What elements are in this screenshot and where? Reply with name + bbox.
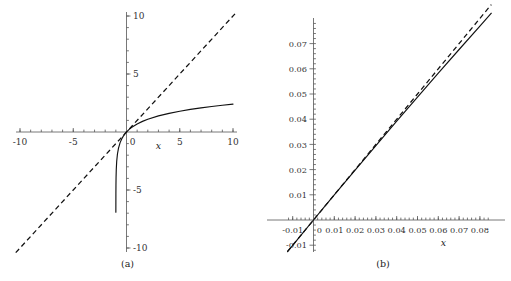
x-tick-label: -0.01 bbox=[282, 225, 303, 235]
series-log-1-x bbox=[288, 13, 492, 251]
series-log-1-x bbox=[116, 104, 233, 212]
x-tick-label: 0 bbox=[130, 137, 136, 147]
x-tick-label: -5 bbox=[69, 137, 78, 147]
panel-a: -10-50510105-5-10x (a) bbox=[0, 0, 255, 281]
y-tick-label: -5 bbox=[133, 185, 142, 195]
x-axis-label: x bbox=[441, 237, 447, 248]
y-tick-label: 0.04 bbox=[289, 114, 307, 124]
x-tick-label: 0.07 bbox=[450, 225, 468, 235]
panel-b-caption: (b) bbox=[255, 258, 511, 269]
x-tick-label: 0.04 bbox=[388, 225, 406, 235]
x-axis-label: x bbox=[156, 140, 162, 151]
x-tick-label: 10 bbox=[227, 137, 239, 147]
y-tick-label: 0.07 bbox=[289, 39, 307, 49]
x-tick-label: 0 bbox=[317, 225, 322, 235]
y-tick-label: 0.02 bbox=[289, 165, 307, 175]
x-axis-major-ticks: -10-50510 bbox=[13, 128, 239, 147]
y-tick-label: 5 bbox=[133, 69, 139, 79]
y-tick-label: 0.01 bbox=[289, 190, 307, 200]
plot-b-svg: -0.0100.010.020.030.040.050.060.070.080.… bbox=[255, 0, 511, 256]
x-tick-label: 0.01 bbox=[325, 225, 343, 235]
y-tick-label: 0.05 bbox=[289, 89, 307, 99]
y-tick-label: 0.06 bbox=[289, 64, 307, 74]
figure-container: -10-50510105-5-10x (a) -0.0100.010.020.0… bbox=[0, 0, 511, 281]
x-tick-label: 0.03 bbox=[367, 225, 385, 235]
plot-a-svg: -10-50510105-5-10x bbox=[0, 0, 255, 256]
x-tick-label: 0.02 bbox=[346, 225, 364, 235]
panel-b: -0.0100.010.020.030.040.050.060.070.080.… bbox=[255, 0, 511, 281]
x-tick-label: 0.08 bbox=[471, 225, 489, 235]
x-tick-label: 0.06 bbox=[429, 225, 447, 235]
x-tick-label: 5 bbox=[177, 137, 183, 147]
y-tick-label: -10 bbox=[133, 243, 148, 253]
y-tick-label: 0.03 bbox=[289, 140, 307, 150]
x-tick-label: 0.05 bbox=[408, 225, 426, 235]
x-tick-label: -10 bbox=[13, 137, 28, 147]
panel-a-caption: (a) bbox=[0, 258, 255, 269]
y-tick-label: 10 bbox=[133, 11, 145, 21]
